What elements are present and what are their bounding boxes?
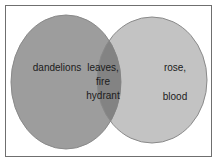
right-set-label-line-2: blood [142,90,208,104]
venn-diagram-figure: dandelions leaves, fire hydrant rose,blo… [0,0,219,167]
right-set-label-line-1: rose, [164,62,186,73]
right-set-label: rose,blood [142,61,208,104]
intersection-label: leaves, fire hydrant [75,61,131,103]
